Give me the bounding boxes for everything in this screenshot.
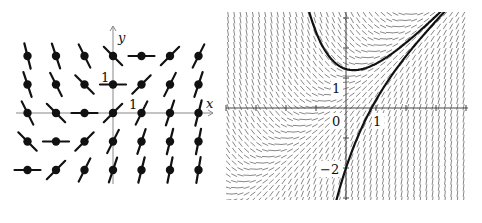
x-tick-label-1: 1 xyxy=(129,97,137,112)
grid-point xyxy=(23,166,31,174)
grid-point xyxy=(23,109,31,117)
grid-point xyxy=(137,166,145,174)
direction-field-figure: 0 1 1 −2 xyxy=(222,0,482,223)
grid-point xyxy=(166,80,174,88)
grid-point xyxy=(109,166,117,174)
grid-point xyxy=(137,137,145,145)
grid-point xyxy=(52,52,60,60)
grid-point xyxy=(137,109,145,117)
grid-point xyxy=(52,166,60,174)
grid-point xyxy=(109,52,117,60)
y-axis-label: y xyxy=(117,30,126,45)
grid-point xyxy=(80,137,88,145)
grid-point xyxy=(166,137,174,145)
grid-point xyxy=(194,137,202,145)
grid-point xyxy=(166,109,174,117)
grid-point xyxy=(194,52,202,60)
grid-point xyxy=(80,166,88,174)
grid-point xyxy=(80,109,88,117)
x-tick-label-1: 1 xyxy=(373,114,381,129)
direction-field-plot: 0 1 1 −2 xyxy=(222,0,482,223)
grid-point xyxy=(194,80,202,88)
grid-point xyxy=(52,137,60,145)
y-tick-label-neg2: −2 xyxy=(320,162,339,177)
grid-point xyxy=(137,80,145,88)
slope-field-grid-figure: x y 1 1 xyxy=(0,0,222,223)
grid-point xyxy=(137,52,145,60)
grid-point xyxy=(194,109,202,117)
grid-point xyxy=(80,52,88,60)
grid-point xyxy=(194,166,202,174)
grid-point xyxy=(23,80,31,88)
grid-point xyxy=(109,80,117,88)
y-tick-label-1: 1 xyxy=(101,70,109,85)
grid-point xyxy=(109,109,117,117)
slope-field-grid-plot: x y 1 1 xyxy=(0,0,222,223)
grid-point xyxy=(109,137,117,145)
grid-point xyxy=(23,137,31,145)
axes xyxy=(16,26,213,184)
grid-point xyxy=(166,166,174,174)
x-axis-label: x xyxy=(206,96,214,111)
origin-label: 0 xyxy=(332,114,340,129)
grid-point xyxy=(80,80,88,88)
grid-point xyxy=(52,80,60,88)
y-tick-label-1: 1 xyxy=(332,81,340,96)
grid-point xyxy=(23,52,31,60)
grid-point xyxy=(166,52,174,60)
grid-point xyxy=(52,109,60,117)
